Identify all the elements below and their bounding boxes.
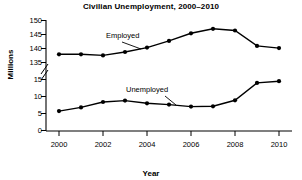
axis-break-marker [41, 64, 48, 80]
series-markers-unemployed [57, 79, 281, 113]
y-axis-ticks [41, 21, 46, 131]
leader-line-employed [122, 42, 141, 49]
chart-container: Civilian Unemployment, 2000–2010 Million… [0, 0, 302, 180]
x-axis-ticks [59, 131, 279, 136]
plot-area [0, 0, 302, 180]
series-markers-employed [57, 27, 281, 58]
